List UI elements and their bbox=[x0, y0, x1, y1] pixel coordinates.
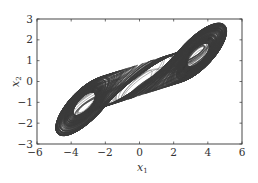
attractor-trajectory bbox=[56, 23, 227, 136]
xtick-label: 4 bbox=[204, 146, 211, 158]
ytick-label: 3 bbox=[26, 13, 33, 25]
ytick-label: −1 bbox=[18, 96, 33, 108]
phase-portrait-chart: 3 2 1 0 −1 −2 −3 −6 −4 −2 0 2 4 6 x1 x2 bbox=[0, 0, 258, 183]
ytick-label: 1 bbox=[26, 54, 33, 66]
xtick-label: −6 bbox=[27, 146, 43, 158]
xtick-label: 2 bbox=[170, 146, 177, 158]
trajectory-segment bbox=[56, 23, 226, 135]
ytick-label: 2 bbox=[26, 33, 33, 45]
xtick-label: −4 bbox=[63, 146, 79, 158]
xtick-label: 0 bbox=[136, 146, 143, 158]
ytick-label: 0 bbox=[26, 75, 33, 87]
ytick-label: −2 bbox=[18, 117, 33, 129]
xtick-label: 6 bbox=[239, 146, 246, 158]
xtick-label: −2 bbox=[97, 146, 112, 158]
y-axis-label: x2 bbox=[9, 76, 23, 87]
x-axis-label: x1 bbox=[137, 161, 148, 175]
